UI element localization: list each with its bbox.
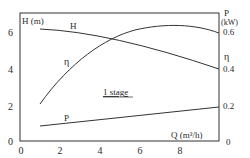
x-tick-6: 6 <box>138 145 143 156</box>
y-right-title-kw: (kW) <box>221 18 238 27</box>
x-title: Q (m³/h) <box>171 130 202 140</box>
y-right-tick-0.6: 0.6 <box>223 27 235 37</box>
curve-efficiency-label: η <box>64 56 69 67</box>
plot-frame <box>20 13 219 141</box>
x-tick-4: 4 <box>98 145 103 156</box>
y-right-tick-0: 0 <box>226 137 231 147</box>
y-left-title: H (m) <box>22 16 44 26</box>
y-right-tick-0.4: 0.4 <box>223 64 235 74</box>
curve-power-label: P <box>64 113 69 123</box>
y-right-eta-label: η <box>224 51 229 62</box>
pump-performance-chart: 0 2 4 6 H (m) 0 2 4 6 8 Q (m³/h) P (kW) … <box>0 0 250 158</box>
x-tick-0: 0 <box>19 145 24 156</box>
y-left-tick-0: 0 <box>8 136 13 147</box>
y-left-tick-2: 2 <box>8 101 13 112</box>
y-right-tick-0.2: 0.2 <box>223 101 234 111</box>
stage-annotation: 1 stage <box>103 87 128 97</box>
x-tick-8: 8 <box>178 145 183 156</box>
x-tick-2: 2 <box>58 145 63 156</box>
y-right-title-p: P <box>224 8 229 18</box>
y-left-tick-6: 6 <box>8 27 13 38</box>
curve-head-label: H <box>70 21 77 31</box>
y-left-tick-4: 4 <box>8 64 13 75</box>
